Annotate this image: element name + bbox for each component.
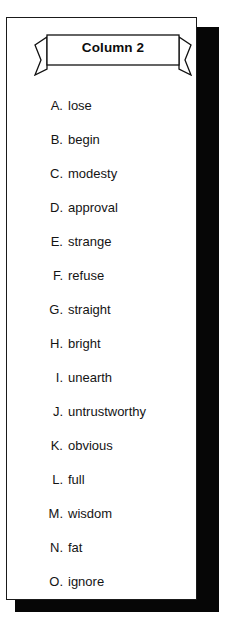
list-item: C. modesty [7, 166, 198, 200]
list-item-text: begin [68, 132, 100, 147]
list-item: J. untrustworthy [7, 404, 198, 438]
list-item: O. ignore [7, 574, 198, 608]
list-item: N. fat [7, 540, 198, 574]
list-item-letter: I. [7, 370, 63, 385]
list-item-text: untrustworthy [68, 404, 146, 419]
list-item: I. unearth [7, 370, 198, 404]
list-item-text: bright [68, 336, 101, 351]
list-item-text: strange [68, 234, 111, 249]
worksheet-column-panel: Column 2 A. lose B. begin C. modesty D. … [0, 0, 229, 621]
list-item-text: refuse [68, 268, 104, 283]
list-item-letter: N. [7, 540, 63, 555]
banner-center-shape [47, 35, 179, 65]
word-list: A. lose B. begin C. modesty D. approval … [7, 98, 198, 608]
column-card: Column 2 A. lose B. begin C. modesty D. … [6, 17, 197, 600]
list-item-letter: O. [7, 574, 63, 589]
list-item: A. lose [7, 98, 198, 132]
list-item-letter: F. [7, 268, 63, 283]
list-item-letter: H. [7, 336, 63, 351]
list-item-text: lose [68, 98, 92, 113]
list-item-text: modesty [68, 166, 117, 181]
list-item: L. full [7, 472, 198, 506]
list-item-text: straight [68, 302, 111, 317]
list-item-letter: J. [7, 404, 63, 419]
list-item-letter: K. [7, 438, 63, 453]
list-item: E. strange [7, 234, 198, 268]
list-item-text: unearth [68, 370, 112, 385]
list-item-letter: M. [7, 506, 63, 521]
list-item: M. wisdom [7, 506, 198, 540]
list-item: H. bright [7, 336, 198, 370]
list-item-text: fat [68, 540, 82, 555]
list-item-letter: D. [7, 200, 63, 215]
list-item-letter: G. [7, 302, 63, 317]
list-item-text: approval [68, 200, 118, 215]
list-item-letter: L. [7, 472, 63, 487]
banner-left-tail-shape [35, 37, 47, 75]
list-item-letter: A. [7, 98, 63, 113]
column-header-banner: Column 2 [33, 29, 193, 76]
list-item: D. approval [7, 200, 198, 234]
list-item: G. straight [7, 302, 198, 336]
list-item-text: ignore [68, 574, 104, 589]
banner-right-tail-shape [179, 37, 191, 75]
list-item-letter: C. [7, 166, 63, 181]
list-item: F. refuse [7, 268, 198, 302]
list-item-letter: E. [7, 234, 63, 249]
list-item-letter: B. [7, 132, 63, 147]
list-item: B. begin [7, 132, 198, 166]
list-item-text: full [68, 472, 85, 487]
list-item-text: wisdom [68, 506, 112, 521]
list-item: K. obvious [7, 438, 198, 472]
list-item-text: obvious [68, 438, 113, 453]
